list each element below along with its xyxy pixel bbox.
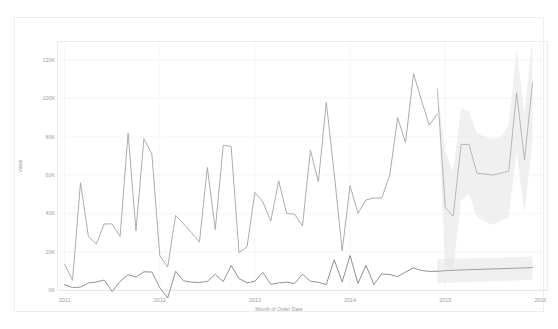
x-axis-tick-label: 2012 xyxy=(154,297,166,303)
x-axis-tick-label: 2011 xyxy=(59,297,71,303)
line-chart[interactable] xyxy=(15,18,545,313)
series-line xyxy=(65,74,438,281)
x-axis-tick-label: 2014 xyxy=(344,297,356,303)
x-axis-tick-label: 2016 xyxy=(534,297,546,303)
x-axis-tick-label: 2013 xyxy=(249,297,261,303)
screen-root: Value 0K20K40K60K80K100K120K 20112012201… xyxy=(0,0,558,329)
x-axis-title: Month of Order Date xyxy=(15,306,543,312)
forecast-confidence-bands xyxy=(437,37,532,283)
x-axis-tick-label: 2015 xyxy=(439,297,451,303)
visualization-card: Value 0K20K40K60K80K100K120K 20112012201… xyxy=(14,17,544,312)
series-line xyxy=(65,256,438,299)
